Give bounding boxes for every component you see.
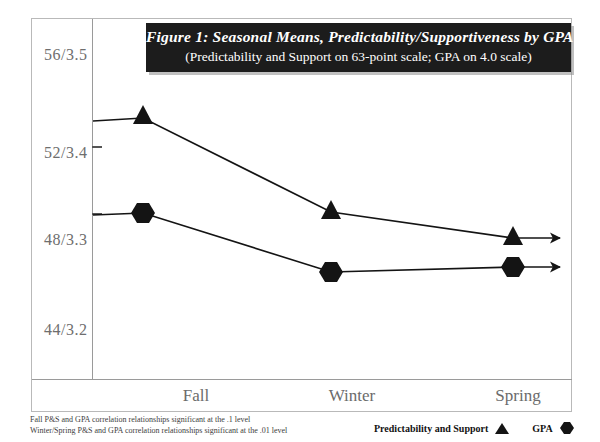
y-tick-label-2: 48/3.3 [36,231,122,249]
footnote-line-1: Fall P&S and GPA correlation relationshi… [30,415,287,426]
footnote-line-2: Winter/Spring P&S and GPA correlation re… [30,426,287,437]
x-tick-label-winter: Winter [329,386,376,406]
y-tick-label-0: 56/3.5 [36,46,122,64]
triangle-marker [494,422,510,435]
hexagon-marker [559,421,575,435]
figure-title-main: Figure 1: Seasonal Means, Predictability… [146,27,571,47]
x-axis-line [32,379,572,380]
y-tickmark-48 [92,213,102,215]
x-tick-label-spring: Spring [495,386,540,406]
chart-frame [31,18,572,412]
y-tick-label-1: 52/3.4 [36,144,122,162]
y-tick-label-3: 44/3.2 [36,321,122,339]
figure-root: 56/3.5 52/3.4 48/3.3 44/3.2 Fall Winter … [0,0,600,442]
x-tick-label-fall: Fall [183,386,209,406]
legend-label-predictability: Predictability and Support [374,423,488,434]
legend-label-gpa: GPA [532,423,552,434]
figure-title-banner: Figure 1: Seasonal Means, Predictability… [146,23,571,72]
chart-legend: Predictability and Support GPA [374,421,575,435]
footnotes: Fall P&S and GPA correlation relationshi… [30,415,287,436]
figure-title-sub: (Predictability and Support on 63-point … [146,47,571,66]
